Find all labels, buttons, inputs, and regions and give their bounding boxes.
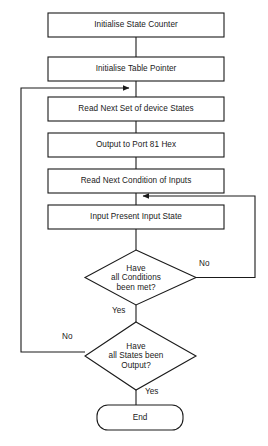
node-input-present-shape bbox=[48, 205, 224, 229]
node-read-next-condition-shape bbox=[48, 169, 224, 193]
edge-label-conditions-yes: Yes bbox=[112, 306, 125, 316]
edge-label-states-no: No bbox=[62, 332, 72, 342]
flowchart-diagram: Initialise State Counter Initialise Tabl… bbox=[0, 0, 268, 446]
edge-label-states-yes: Yes bbox=[145, 387, 158, 397]
node-read-next-set-shape bbox=[48, 97, 224, 121]
edge-label-conditions-no: No bbox=[199, 259, 209, 269]
decision-states-output-shape bbox=[85, 322, 196, 390]
node-initialise-state-counter-shape bbox=[48, 13, 224, 37]
node-end-shape bbox=[97, 405, 183, 430]
node-initialise-table-pointer-shape bbox=[48, 57, 224, 81]
flowchart-canvas bbox=[0, 0, 268, 446]
decision-conditions-met-shape bbox=[85, 250, 196, 305]
node-output-port-shape bbox=[48, 133, 224, 157]
